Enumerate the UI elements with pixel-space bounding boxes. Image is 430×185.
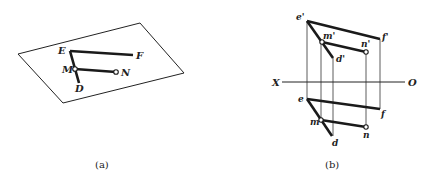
label-d-top: d bbox=[332, 138, 339, 148]
segment-ef bbox=[70, 51, 133, 55]
label-e-top: e bbox=[298, 94, 304, 104]
label-e-prime: e' bbox=[296, 12, 304, 22]
label-m-prime: m' bbox=[323, 31, 335, 41]
point-n-top-marker bbox=[364, 125, 368, 129]
axis-label-o: O bbox=[408, 77, 417, 88]
segment-ef-top bbox=[307, 99, 380, 109]
label-m-top: m bbox=[310, 117, 320, 127]
axis-label-x: X bbox=[271, 77, 281, 88]
label-f: F bbox=[135, 50, 144, 61]
point-n-marker bbox=[114, 70, 119, 75]
label-d: D bbox=[74, 83, 84, 94]
label-n-prime: n' bbox=[361, 39, 370, 49]
projection-diagram: E F M N D (a) X O e' f' m' n' d' e bbox=[0, 0, 430, 185]
point-m-marker bbox=[73, 67, 78, 72]
point-n1-marker bbox=[364, 50, 368, 54]
caption-b: (b) bbox=[325, 159, 339, 170]
segment-mn bbox=[75, 69, 116, 72]
label-n: N bbox=[120, 67, 131, 78]
label-d-prime: d' bbox=[336, 54, 345, 64]
label-m: M bbox=[61, 64, 74, 75]
label-n-top: n bbox=[363, 130, 370, 140]
segment-mn-top bbox=[321, 120, 366, 127]
label-f-prime: f' bbox=[381, 32, 389, 42]
plane-parallelogram bbox=[18, 23, 184, 103]
caption-a: (a) bbox=[95, 159, 109, 170]
panel-a: E F M N D (a) bbox=[18, 23, 184, 170]
label-f-top: f bbox=[380, 109, 387, 119]
panel-b: X O e' f' m' n' d' e f m n d (b) bbox=[271, 12, 417, 170]
label-e: E bbox=[57, 45, 66, 56]
